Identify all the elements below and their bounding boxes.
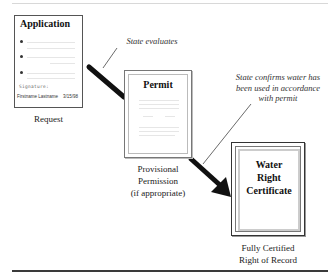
placeholder-line [27, 73, 75, 74]
certificate-mid-border: Water Right Certificate [235, 146, 301, 232]
bullet-icon [20, 71, 23, 74]
placeholder-line [139, 131, 179, 132]
placeholder-line [139, 104, 179, 105]
caption-line: Provisional [117, 163, 199, 175]
permit-title: Permit [129, 79, 187, 90]
certificate-title: Water Right Certificate [240, 158, 298, 197]
caption-request: Request [14, 113, 83, 125]
caption-line: Fully Certified [224, 242, 312, 254]
annotation-state-evaluates: State evaluates [112, 36, 192, 47]
certificate-title-line: Right [240, 171, 298, 184]
pointer-state-evaluates [103, 48, 117, 68]
placeholder-line [50, 63, 75, 64]
placeholder-line [165, 116, 175, 117]
caption-line: Permission [117, 175, 199, 187]
signature-name: Firstname Lastname [17, 94, 58, 99]
caption-fully-certified: Fully Certified Right of Record [224, 242, 312, 266]
placeholder-line [27, 78, 75, 79]
placeholder-line [139, 135, 175, 136]
caption-provisional-permission: Provisional Permission (if appropriate) [117, 163, 199, 199]
signature-date: 3/15/98 [63, 94, 78, 99]
bottom-rule [12, 270, 328, 272]
placeholder-line [27, 57, 75, 58]
placeholder-line [27, 42, 75, 43]
annotation-line: with permit [226, 93, 328, 104]
caption-line: (if appropriate) [117, 187, 199, 199]
permit-inner-border: Permit [128, 74, 188, 154]
annotation-state-confirms: State confirms water has been used in ac… [226, 72, 328, 104]
certificate-document: Water Right Certificate [231, 142, 305, 236]
certificate-title-line: Water [240, 158, 298, 171]
application-title: Application [20, 18, 70, 29]
placeholder-line [27, 48, 75, 49]
placeholder-line [139, 127, 179, 128]
arrow-application-to-permit [89, 67, 124, 97]
signature-label: Signature: [19, 84, 49, 89]
annotation-line: State confirms water has [226, 72, 328, 83]
certificate-inner-border: Water Right Certificate [238, 149, 300, 231]
bullet-icon [20, 40, 23, 43]
placeholder-line [143, 116, 153, 117]
permit-document: Permit [124, 70, 192, 158]
annotation-line: been used in accordance [226, 83, 328, 94]
application-document: Application Signature: Firstname Lastnam… [14, 15, 83, 108]
placeholder-line [139, 100, 179, 101]
placeholder-line [139, 108, 179, 109]
certificate-title-line: Certificate [240, 184, 298, 197]
caption-line: Right of Record [224, 254, 312, 266]
bullet-icon [20, 55, 23, 58]
